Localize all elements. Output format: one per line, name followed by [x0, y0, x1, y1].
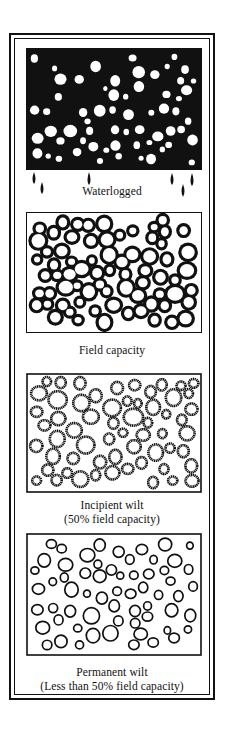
- label-field-capacity: Field capacity: [14, 343, 210, 357]
- panel-waterlogged: [26, 48, 202, 170]
- label-line: (Less than 50% field capacity): [14, 679, 210, 693]
- label-line: (50% field capacity): [14, 512, 210, 526]
- permanent-wilt-soil-illustration: [26, 533, 202, 656]
- label-line: Incipient wilt: [14, 498, 210, 512]
- label-permanent-wilt: Permanent wilt (Less than 50% field capa…: [14, 665, 210, 693]
- panel-permanent-wilt: [26, 533, 202, 656]
- incipient-wilt-soil-illustration: [26, 373, 202, 493]
- field-capacity-soil-illustration: [26, 212, 202, 333]
- label-waterlogged: Waterlogged: [14, 184, 210, 198]
- label-incipient-wilt: Incipient wilt (50% field capacity): [14, 498, 210, 526]
- waterlogged-soil-illustration: [26, 48, 202, 170]
- panel-field-capacity: [26, 212, 202, 333]
- label-line: Waterlogged: [14, 184, 210, 198]
- label-line: Permanent wilt: [14, 665, 210, 679]
- label-line: Field capacity: [14, 343, 210, 357]
- panel-incipient-wilt: [26, 373, 202, 493]
